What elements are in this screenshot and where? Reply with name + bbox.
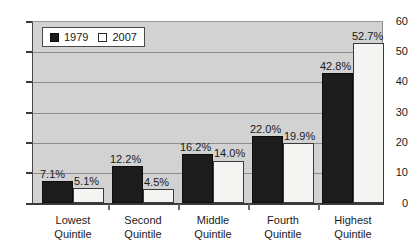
bar-1979-fourth-quintile: [252, 136, 283, 203]
y-tick-mark-60: [26, 21, 32, 23]
y-tick-mark-50: [26, 51, 32, 53]
x-label-line-2: Quintile: [178, 228, 248, 242]
x-label-line-2: Quintile: [108, 228, 178, 242]
x-tick-mark-3: [248, 204, 250, 210]
bar-1979-middle-quintile: [182, 154, 213, 203]
y-tick-label-50: 50: [384, 46, 408, 57]
y-tick-mark-10: [26, 172, 32, 174]
x-tick-mark-2: [178, 204, 180, 210]
bar-chart: 60 50 40 30 20 10 0 7.1% 5.1% 12.2% 4.5%…: [0, 0, 408, 246]
y-tick-label-60: 60: [384, 16, 408, 27]
x-tick-mark-4: [318, 204, 320, 210]
bar-2007-second-quintile: [143, 189, 174, 203]
bar-2007-lowest-quintile: [73, 188, 104, 204]
x-label-line-1: Fourth: [248, 214, 318, 228]
x-label-line-2: Quintile: [38, 228, 108, 242]
bar-label-2007-middle-quintile: 14.0%: [214, 148, 245, 159]
legend-entry-2007: 2007: [98, 32, 136, 43]
bar-1979-second-quintile: [112, 166, 143, 203]
bar-label-2007-second-quintile: 4.5%: [144, 177, 169, 188]
y-tick-label-30: 30: [384, 107, 408, 118]
y-tick-mark-30: [26, 112, 32, 114]
x-label-line-1: Middle: [178, 214, 248, 228]
bar-2007-fourth-quintile: [283, 143, 314, 203]
y-tick-mark-40: [26, 81, 32, 83]
x-label-line-1: Second: [108, 214, 178, 228]
bar-1979-highest-quintile: [322, 73, 353, 203]
y-tick-mark-0: [26, 203, 32, 205]
bar-1979-lowest-quintile: [42, 181, 73, 203]
legend-entry-1979: 1979: [50, 32, 88, 43]
bar-2007-highest-quintile: [353, 43, 384, 203]
y-tick-label-10: 10: [384, 167, 408, 178]
gridline-50: [33, 52, 382, 53]
bar-label-1979-fourth-quintile: 22.0%: [250, 124, 281, 135]
chart-legend: 1979 2007: [42, 27, 145, 47]
legend-label-2007: 2007: [112, 32, 136, 43]
legend-swatch-icon-1979: [50, 33, 59, 42]
y-tick-label-0: 0: [384, 198, 408, 209]
x-axis-line: [32, 203, 384, 205]
bar-2007-middle-quintile: [213, 161, 244, 204]
bar-label-1979-second-quintile: 12.2%: [110, 154, 141, 165]
legend-label-1979: 1979: [64, 32, 88, 43]
x-label-highest-quintile: Highest Quintile: [318, 214, 388, 241]
bar-label-1979-highest-quintile: 42.8%: [320, 61, 351, 72]
x-label-fourth-quintile: Fourth Quintile: [248, 214, 318, 241]
x-label-line-1: Highest: [318, 214, 388, 228]
x-label-line-1: Lowest: [38, 214, 108, 228]
bar-label-1979-lowest-quintile: 7.1%: [40, 169, 65, 180]
bar-label-2007-lowest-quintile: 5.1%: [74, 176, 99, 187]
bar-label-2007-fourth-quintile: 19.9%: [284, 131, 315, 142]
x-tick-mark-1: [108, 204, 110, 210]
legend-swatch-icon-2007: [98, 33, 107, 42]
bar-label-2007-highest-quintile: 52.7%: [352, 31, 383, 42]
x-label-lowest-quintile: Lowest Quintile: [38, 214, 108, 241]
y-tick-mark-20: [26, 142, 32, 144]
x-label-middle-quintile: Middle Quintile: [178, 214, 248, 241]
x-label-second-quintile: Second Quintile: [108, 214, 178, 241]
x-label-line-2: Quintile: [248, 228, 318, 242]
x-label-line-2: Quintile: [318, 228, 388, 242]
y-tick-label-20: 20: [384, 137, 408, 148]
bar-label-1979-middle-quintile: 16.2%: [180, 142, 211, 153]
y-tick-label-40: 40: [384, 76, 408, 87]
